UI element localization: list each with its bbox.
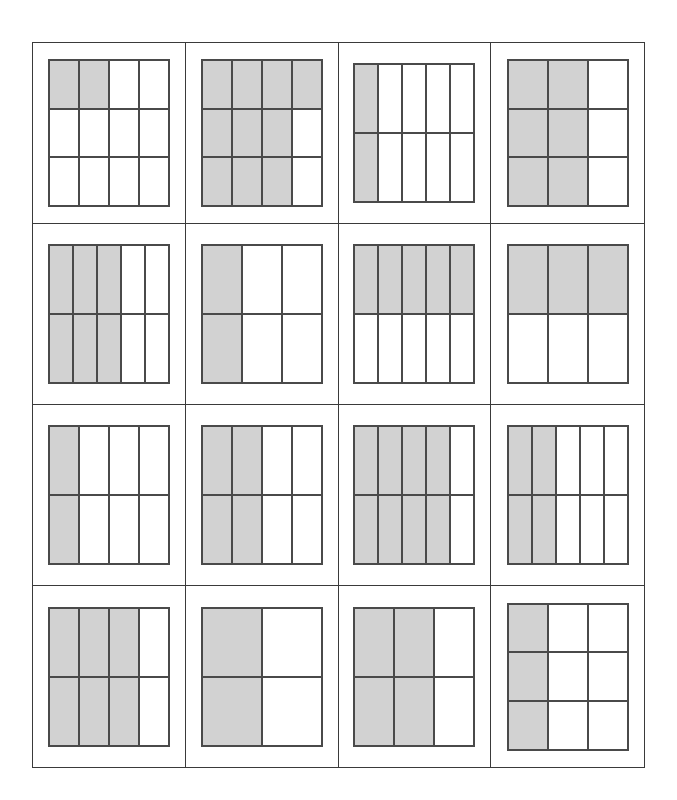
problem-cell-11[interactable] — [339, 405, 492, 586]
problem-cell-9[interactable] — [33, 405, 186, 586]
unshaded-part[interactable] — [509, 315, 547, 382]
unshaded-part[interactable] — [263, 427, 291, 494]
unshaded-part[interactable] — [451, 65, 473, 132]
unshaded-part[interactable] — [80, 427, 108, 494]
shaded-part[interactable] — [233, 427, 261, 494]
shaded-part[interactable] — [427, 427, 449, 494]
shaded-part[interactable] — [203, 496, 231, 563]
unshaded-part[interactable] — [427, 134, 449, 201]
unshaded-part[interactable] — [80, 158, 108, 205]
shaded-part[interactable] — [74, 315, 96, 382]
shaded-part[interactable] — [203, 678, 261, 745]
unshaded-part[interactable] — [293, 496, 321, 563]
unshaded-part[interactable] — [146, 315, 168, 382]
shaded-part[interactable] — [427, 496, 449, 563]
shaded-part[interactable] — [509, 653, 547, 700]
shaded-part[interactable] — [203, 246, 241, 313]
problem-cell-12[interactable] — [491, 405, 644, 586]
shaded-part[interactable] — [50, 496, 78, 563]
unshaded-part[interactable] — [379, 134, 401, 201]
shaded-part[interactable] — [403, 246, 425, 313]
shaded-part[interactable] — [379, 246, 401, 313]
unshaded-part[interactable] — [589, 110, 627, 157]
unshaded-part[interactable] — [293, 110, 321, 157]
unshaded-part[interactable] — [110, 496, 138, 563]
unshaded-part[interactable] — [263, 496, 291, 563]
problem-cell-3[interactable] — [339, 43, 492, 224]
problem-cell-16[interactable] — [491, 586, 644, 767]
unshaded-part[interactable] — [110, 110, 138, 157]
shaded-part[interactable] — [263, 61, 291, 108]
shaded-part[interactable] — [509, 427, 531, 494]
shaded-part[interactable] — [80, 678, 108, 745]
shaded-part[interactable] — [355, 496, 377, 563]
shaded-part[interactable] — [549, 246, 587, 313]
shaded-part[interactable] — [355, 134, 377, 201]
unshaded-part[interactable] — [50, 110, 78, 157]
shaded-part[interactable] — [50, 427, 78, 494]
unshaded-part[interactable] — [549, 315, 587, 382]
unshaded-part[interactable] — [140, 427, 168, 494]
unshaded-part[interactable] — [110, 158, 138, 205]
shaded-part[interactable] — [509, 61, 547, 108]
problem-cell-13[interactable] — [33, 586, 186, 767]
shaded-part[interactable] — [203, 61, 231, 108]
shaded-part[interactable] — [549, 61, 587, 108]
unshaded-part[interactable] — [435, 678, 473, 745]
unshaded-part[interactable] — [589, 605, 627, 652]
shaded-part[interactable] — [379, 427, 401, 494]
shaded-part[interactable] — [403, 496, 425, 563]
unshaded-part[interactable] — [50, 158, 78, 205]
problem-cell-2[interactable] — [186, 43, 339, 224]
unshaded-part[interactable] — [80, 496, 108, 563]
unshaded-part[interactable] — [122, 315, 144, 382]
shaded-part[interactable] — [50, 61, 78, 108]
unshaded-part[interactable] — [427, 315, 449, 382]
problem-cell-8[interactable] — [491, 224, 644, 405]
unshaded-part[interactable] — [379, 315, 401, 382]
shaded-part[interactable] — [233, 110, 261, 157]
shaded-part[interactable] — [355, 678, 393, 745]
shaded-part[interactable] — [509, 246, 547, 313]
shaded-part[interactable] — [509, 496, 531, 563]
problem-cell-15[interactable] — [339, 586, 492, 767]
shaded-part[interactable] — [233, 61, 261, 108]
unshaded-part[interactable] — [435, 609, 473, 676]
shaded-part[interactable] — [355, 609, 393, 676]
shaded-part[interactable] — [203, 110, 231, 157]
problem-cell-7[interactable] — [339, 224, 492, 405]
shaded-part[interactable] — [203, 158, 231, 205]
unshaded-part[interactable] — [293, 158, 321, 205]
shaded-part[interactable] — [233, 158, 261, 205]
unshaded-part[interactable] — [589, 315, 627, 382]
unshaded-part[interactable] — [122, 246, 144, 313]
unshaded-part[interactable] — [80, 110, 108, 157]
unshaded-part[interactable] — [379, 65, 401, 132]
shaded-part[interactable] — [233, 496, 261, 563]
unshaded-part[interactable] — [581, 496, 603, 563]
unshaded-part[interactable] — [589, 653, 627, 700]
problem-cell-6[interactable] — [186, 224, 339, 405]
unshaded-part[interactable] — [283, 315, 321, 382]
unshaded-part[interactable] — [605, 427, 627, 494]
shaded-part[interactable] — [203, 609, 261, 676]
shaded-part[interactable] — [98, 315, 120, 382]
shaded-part[interactable] — [549, 158, 587, 205]
shaded-part[interactable] — [50, 246, 72, 313]
shaded-part[interactable] — [549, 110, 587, 157]
unshaded-part[interactable] — [589, 61, 627, 108]
shaded-part[interactable] — [80, 61, 108, 108]
shaded-part[interactable] — [203, 315, 241, 382]
problem-cell-5[interactable] — [33, 224, 186, 405]
unshaded-part[interactable] — [263, 678, 321, 745]
unshaded-part[interactable] — [557, 496, 579, 563]
shaded-part[interactable] — [263, 158, 291, 205]
shaded-part[interactable] — [379, 496, 401, 563]
shaded-part[interactable] — [110, 678, 138, 745]
shaded-part[interactable] — [203, 427, 231, 494]
unshaded-part[interactable] — [549, 653, 587, 700]
unshaded-part[interactable] — [140, 110, 168, 157]
shaded-part[interactable] — [74, 246, 96, 313]
shaded-part[interactable] — [509, 110, 547, 157]
shaded-part[interactable] — [403, 427, 425, 494]
